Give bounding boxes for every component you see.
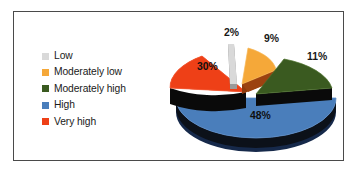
legend-label-moderately-low: Moderately low <box>54 67 122 77</box>
legend-swatch-high <box>42 102 49 109</box>
legend-swatch-very-high <box>42 118 49 125</box>
legend-label-moderately-high: Moderately high <box>54 84 126 94</box>
chart-legend: Low Moderately low Moderately high High … <box>42 48 162 130</box>
data-label-low: 2% <box>224 28 239 38</box>
legend-item-low[interactable]: Low <box>42 48 162 64</box>
legend-item-very-high[interactable]: Very high <box>42 114 162 130</box>
legend-label-very-high: Very high <box>54 117 96 127</box>
pie-chart: 2% 9% 11% 48% 30% <box>164 26 356 166</box>
legend-item-moderately-high[interactable]: Moderately high <box>42 81 162 97</box>
pie-chart-svg <box>164 26 356 166</box>
legend-item-high[interactable]: High <box>42 97 162 113</box>
chart-frame: Low Moderately low Moderately high High … <box>13 11 344 161</box>
legend-swatch-moderately-low <box>42 69 49 76</box>
figure-container: Low Moderately low Moderately high High … <box>0 0 356 172</box>
legend-swatch-low <box>42 53 49 60</box>
legend-label-low: Low <box>54 51 73 61</box>
data-label-moderately-low: 9% <box>264 34 279 44</box>
legend-swatch-moderately-high <box>42 85 49 92</box>
legend-label-high: High <box>54 100 75 110</box>
data-label-moderately-high: 11% <box>307 52 327 62</box>
legend-item-moderately-low[interactable]: Moderately low <box>42 64 162 80</box>
data-label-very-high: 30% <box>197 62 218 72</box>
data-label-high: 48% <box>250 111 271 121</box>
